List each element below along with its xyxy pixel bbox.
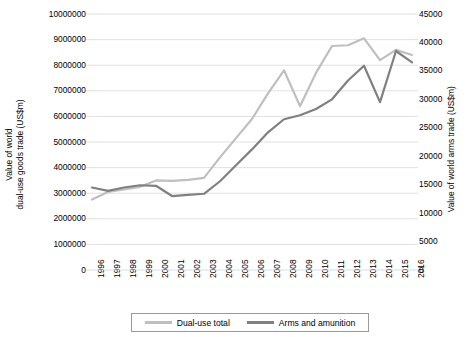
left-axis-title-text: Value of world dual-use goods trade (US$… (4, 100, 25, 210)
series-line-dual-use-total (92, 38, 412, 199)
left-axis-tick-label: 3000000 (53, 188, 86, 199)
left-axis-tick-label: 1000000 (53, 239, 86, 250)
right-axis-tick-label: 10000 (419, 208, 442, 219)
right-axis-tick-label: 45000 (419, 9, 442, 20)
left-axis-tick-label: 10000000 (49, 9, 86, 20)
legend-color-swatch (247, 321, 274, 324)
right-axis-tick-label: 5000 (419, 236, 438, 247)
left-axis-tick-label: 8000000 (53, 60, 86, 71)
legend-color-swatch (145, 321, 172, 324)
legend-label: Dual-use total (177, 318, 230, 328)
right-axis-tick-label: 25000 (419, 122, 442, 133)
plot-area (92, 14, 412, 270)
right-axis-tick-label: 40000 (419, 37, 442, 48)
plot-svg (92, 14, 412, 270)
right-axis-tick-label: 30000 (419, 94, 442, 105)
legend-item[interactable]: Dual-use total (145, 318, 230, 328)
dual-axis-line-chart: Value of world dual-use goods trade (US$… (0, 0, 469, 337)
chart-legend: Dual-use totalArms and amunition (131, 313, 369, 332)
gridlines (86, 14, 418, 270)
right-axis-tick-label: 15000 (419, 179, 442, 190)
x-axis-tick-label: 2016 (416, 259, 426, 278)
left-axis-tick-label: 9000000 (53, 34, 86, 45)
left-axis-title: Value of world dual-use goods trade (US$… (4, 55, 25, 255)
legend-label: Arms and amunition (279, 318, 355, 328)
right-axis-tick-label: 20000 (419, 151, 442, 162)
left-axis-tick-label: 5000000 (53, 137, 86, 148)
series-lines (92, 38, 412, 199)
legend-item[interactable]: Arms and amunition (247, 318, 355, 328)
right-axis-title: Value of world arms trade (US$m) (446, 49, 457, 249)
series-line-arms-and-amunition (92, 51, 412, 196)
left-axis-tick-label: 2000000 (53, 213, 86, 224)
left-axis-tick-label: 0 (81, 265, 86, 276)
left-axis-tick-label: 7000000 (53, 85, 86, 96)
left-axis-tick-label: 6000000 (53, 111, 86, 122)
right-axis-title-text: Value of world arms trade (US$m) (446, 86, 456, 212)
left-axis-tick-label: 4000000 (53, 162, 86, 173)
right-axis-tick-label: 35000 (419, 65, 442, 76)
